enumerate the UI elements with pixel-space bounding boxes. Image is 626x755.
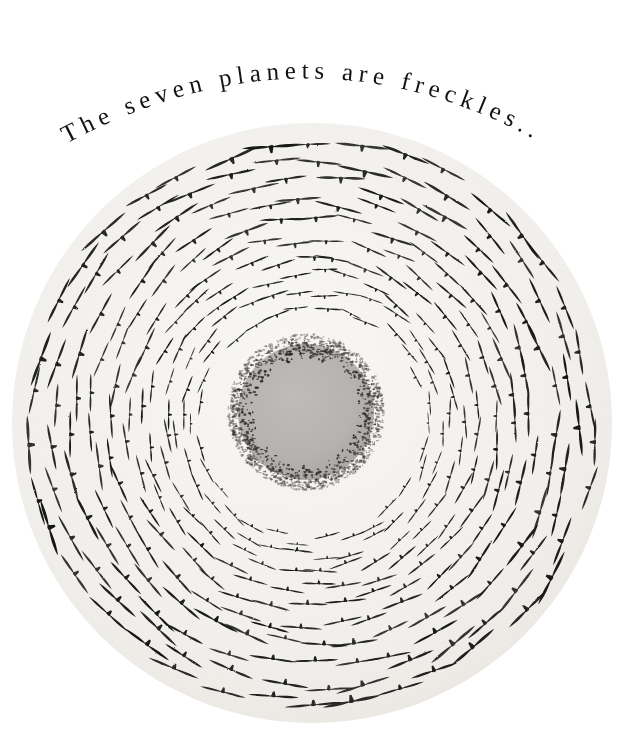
flock-illustration: The seven planets are freckles... xyxy=(0,0,626,755)
artwork-canvas: The seven planets are freckles... xyxy=(0,0,626,755)
